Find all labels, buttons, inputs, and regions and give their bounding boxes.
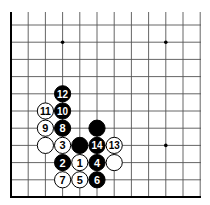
move-number: 10 [57, 105, 68, 117]
move-number: 13 [109, 139, 120, 151]
white-stone-11: 11 [37, 103, 53, 119]
move-number: 7 [60, 174, 66, 186]
white-stone [37, 137, 53, 153]
move-number: 11 [40, 105, 51, 117]
move-number: 6 [94, 174, 100, 186]
move-number: 12 [57, 88, 68, 100]
star-point [164, 144, 168, 148]
stone-circle [72, 137, 88, 153]
star-point [61, 40, 65, 44]
white-stone-13: 13 [106, 137, 122, 153]
stone-circle [37, 137, 53, 153]
black-stone-4: 4 [89, 155, 105, 171]
white-stone [106, 155, 122, 171]
black-stone [89, 120, 105, 136]
black-stone-8: 8 [55, 120, 71, 136]
white-stone-9: 9 [37, 120, 53, 136]
black-stone-10: 10 [55, 103, 71, 119]
white-stone-5: 5 [72, 172, 88, 188]
move-number: 9 [42, 122, 48, 134]
move-number: 14 [92, 139, 104, 151]
move-number: 8 [60, 122, 66, 134]
black-stone-14: 14 [89, 137, 105, 153]
black-stone-2: 2 [55, 155, 71, 171]
move-number: 3 [60, 139, 66, 151]
move-number: 1 [77, 157, 83, 169]
black-stone [72, 137, 88, 153]
black-stone-6: 6 [89, 172, 105, 188]
black-stone-12: 12 [55, 86, 71, 102]
stone-circle [106, 155, 122, 171]
white-stone-3: 3 [55, 137, 71, 153]
white-stone-1: 1 [72, 155, 88, 171]
white-stone-7: 7 [55, 172, 71, 188]
board-grid [10, 12, 201, 198]
move-number: 5 [77, 174, 83, 186]
stone-circle [89, 120, 105, 136]
move-number: 4 [94, 157, 101, 169]
go-board: 1211109831413214756 [0, 0, 210, 205]
star-point [164, 40, 168, 44]
move-number: 2 [60, 157, 66, 169]
